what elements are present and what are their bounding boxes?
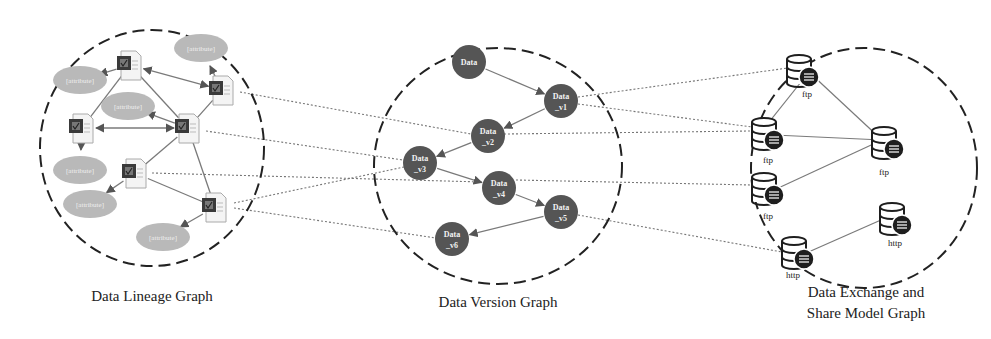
version-node-v0: Data <box>452 45 486 79</box>
svg-text:[attribute]: [attribute] <box>114 103 142 111</box>
version-node-v1: Data_v1 <box>544 84 578 118</box>
svg-text:_v5: _v5 <box>554 214 567 223</box>
database-icon <box>880 203 912 235</box>
lineage-edge <box>106 181 123 193</box>
database-icon <box>752 173 784 205</box>
diagram-canvas: [attribute][attribute][attribute][attrib… <box>0 0 991 339</box>
document-icon <box>69 114 93 143</box>
version-caption: Data Version Graph <box>408 292 588 312</box>
link-d6-v6 <box>234 208 436 238</box>
document-icon <box>117 51 141 80</box>
attribute-node: [attribute] <box>53 156 107 184</box>
exchange-caption-line2: Share Model Graph <box>776 303 956 323</box>
svg-text:Data: Data <box>412 154 428 163</box>
link-v2-s2 <box>504 131 752 134</box>
protocol-label: ftp <box>879 167 889 177</box>
exchange-caption-line1: Data Exchange and <box>776 282 956 302</box>
version-edge <box>437 168 482 182</box>
link-d4-v3 <box>206 131 403 160</box>
lineage-edge <box>193 141 211 194</box>
svg-text:Data: Data <box>461 58 477 67</box>
lineage-edge <box>197 100 212 117</box>
version-node-v4: Data_v4 <box>482 171 516 205</box>
svg-text:[attribute]: [attribute] <box>76 201 104 209</box>
svg-text:[attribute]: [attribute] <box>66 77 94 85</box>
document-icon <box>209 76 233 105</box>
svg-text:Data: Data <box>553 203 569 212</box>
attribute-node: [attribute] <box>101 92 155 120</box>
protocol-label: http <box>888 238 903 248</box>
lineage-edge <box>180 214 203 227</box>
protocol-label: http <box>786 270 801 280</box>
link-v1-s1 <box>578 68 788 97</box>
lineage-caption: Data Lineage Graph <box>62 286 242 306</box>
svg-text:[attribute]: [attribute] <box>149 234 177 242</box>
exchange-edge <box>774 140 882 190</box>
svg-text:_v4: _v4 <box>492 190 505 199</box>
database-icon <box>752 118 784 150</box>
lineage-edge <box>147 113 175 123</box>
exchange-edges <box>762 72 890 254</box>
database-icon <box>782 237 814 269</box>
svg-text:Data: Data <box>553 92 569 101</box>
svg-text:_v3: _v3 <box>413 165 426 174</box>
lineage-edge <box>148 178 202 201</box>
version-node-v5: Data_v5 <box>544 195 578 229</box>
version-node-v6: Data_v6 <box>435 222 469 256</box>
attribute-node: [attribute] <box>63 190 117 218</box>
database-icon <box>872 127 904 159</box>
protocol-label: ftp <box>763 211 773 221</box>
lineage-edge <box>144 69 209 87</box>
exchange-edge <box>809 72 882 140</box>
document-icon <box>202 193 226 222</box>
svg-text:Data: Data <box>491 179 507 188</box>
exchange-edge <box>804 216 890 254</box>
version-edge <box>504 109 545 128</box>
version-edge <box>437 143 472 157</box>
protocol-label: ftp <box>763 155 773 165</box>
svg-text:_v1: _v1 <box>554 103 567 112</box>
version-edge <box>469 216 543 234</box>
exchange-nodes: ftpftpftpftphttphttp <box>752 55 912 280</box>
svg-text:[attribute]: [attribute] <box>66 167 94 175</box>
version-node-v2: Data_v2 <box>471 119 505 153</box>
link-v1-s2 <box>578 104 752 127</box>
svg-text:Data: Data <box>444 230 460 239</box>
lineage-nodes: [attribute][attribute][attribute][attrib… <box>53 34 233 251</box>
version-nodes: DataData_v1Data_v2Data_v3Data_v4Data_v5D… <box>403 45 578 256</box>
attribute-node: [attribute] <box>53 66 107 94</box>
cross-links <box>152 68 788 252</box>
panel-boundaries <box>40 30 977 288</box>
version-node-v3: Data_v3 <box>403 146 437 180</box>
document-icon <box>122 159 146 188</box>
svg-text:_v6: _v6 <box>445 241 458 250</box>
link-v4-s4 <box>516 180 752 185</box>
document-icon <box>175 114 199 143</box>
attribute-node: [attribute] <box>174 34 228 62</box>
svg-text:[attribute]: [attribute] <box>187 45 215 53</box>
svg-text:Data: Data <box>480 127 496 136</box>
version-edge <box>516 194 544 205</box>
attribute-node: [attribute] <box>136 223 190 251</box>
svg-text:_v2: _v2 <box>481 138 494 147</box>
version-edge <box>486 69 545 94</box>
lineage-edge <box>146 137 178 164</box>
protocol-label: ftp <box>802 89 812 99</box>
link-d2-v2 <box>240 92 471 134</box>
exchange-edge <box>774 135 882 140</box>
